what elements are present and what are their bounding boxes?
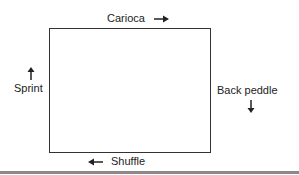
bottom-label: Shuffle	[111, 155, 145, 167]
left-label: Sprint	[14, 82, 43, 94]
right-label: Back peddle	[217, 84, 278, 96]
arrow-left-icon	[88, 158, 104, 166]
arrow-down-icon	[247, 100, 255, 114]
arrow-up-icon	[27, 67, 35, 81]
arrow-right-icon	[154, 15, 170, 23]
divider-line	[0, 171, 299, 174]
top-label: Carioca	[107, 12, 145, 24]
drill-rectangle	[49, 28, 211, 153]
